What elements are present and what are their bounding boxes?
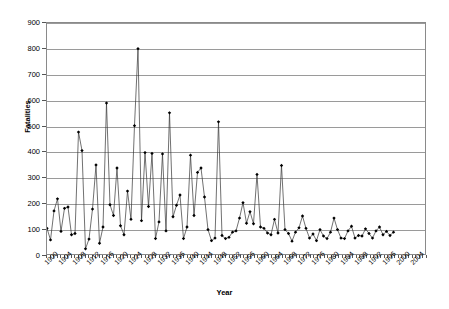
y-tick-label-300: 300 xyxy=(14,173,40,182)
y-tick-label-900: 900 xyxy=(14,18,40,27)
y-tick-mark-100 xyxy=(42,229,46,230)
x-axis-title: Year xyxy=(0,288,449,297)
y-axis: 0100200300400500600700800900190019041908… xyxy=(0,0,449,309)
y-tick-mark-500 xyxy=(42,126,46,127)
y-tick-label-700: 700 xyxy=(14,69,40,78)
y-tick-label-0: 0 xyxy=(14,251,40,260)
y-tick-mark-400 xyxy=(42,151,46,152)
y-tick-label-100: 100 xyxy=(14,225,40,234)
y-tick-label-800: 800 xyxy=(14,43,40,52)
x-tick-mark-2008 xyxy=(426,255,427,258)
y-tick-mark-200 xyxy=(42,203,46,204)
y-tick-mark-900 xyxy=(42,22,46,23)
y-tick-mark-300 xyxy=(42,177,46,178)
chart-root: 0100200300400500600700800900190019041908… xyxy=(0,0,449,309)
y-tick-mark-700 xyxy=(42,74,46,75)
y-tick-mark-600 xyxy=(42,100,46,101)
y-axis-title: Fatalities xyxy=(23,82,32,152)
y-tick-mark-800 xyxy=(42,48,46,49)
y-tick-label-200: 200 xyxy=(14,199,40,208)
